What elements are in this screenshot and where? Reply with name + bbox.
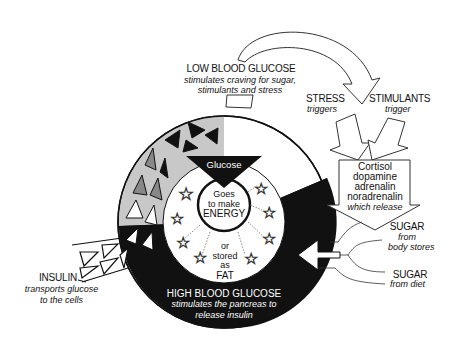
low-glucose-title: LOW BLOOD GLUCOSE bbox=[186, 64, 296, 74]
svg-text:☆: ☆ bbox=[244, 250, 258, 267]
high-glucose-title: HIGH BLOOD GLUCOSE bbox=[159, 289, 289, 299]
svg-text:☆: ☆ bbox=[262, 204, 276, 221]
stress-sub: triggers bbox=[307, 105, 337, 114]
sugar-stores-title: SUGAR bbox=[382, 222, 432, 232]
insulin-line1: transports glucose bbox=[14, 285, 109, 294]
svg-text:☆: ☆ bbox=[170, 210, 184, 227]
insulin-line2: to the cells bbox=[14, 296, 109, 305]
low-glucose-line2: stimulants and stress bbox=[170, 86, 310, 95]
glucose-label: Glucose bbox=[194, 160, 254, 170]
insulin-tube bbox=[72, 238, 128, 282]
stress-title: STRESS bbox=[306, 94, 345, 104]
svg-text:☆: ☆ bbox=[262, 230, 276, 247]
fat-label: or stored as FAT bbox=[204, 242, 246, 280]
stimulants-sub: trigger bbox=[385, 105, 411, 114]
sugar-stores-sub: body stores bbox=[388, 243, 435, 252]
high-glucose-line2: release insulin bbox=[154, 311, 294, 320]
high-glucose-line1: stimulates the pancreas to bbox=[154, 300, 294, 309]
low-glucose-line1: stimulates craving for sugar, bbox=[170, 76, 310, 85]
svg-text:☆: ☆ bbox=[176, 234, 190, 251]
svg-text:☆: ☆ bbox=[178, 184, 194, 204]
energy-label: Goes to make ENERGY bbox=[198, 189, 250, 219]
hormones-list: Cortisol dopamine adrenalin noradrenalin… bbox=[338, 162, 412, 212]
stimulants-title: STIMULANTS bbox=[369, 94, 430, 104]
sugar-diet-sub: from diet bbox=[390, 280, 425, 289]
svg-text:☆: ☆ bbox=[254, 180, 268, 197]
insulin-title: INSULIN bbox=[39, 273, 77, 283]
blood-glucose-cycle-diagram: ☆ ☆ ☆ ☆ ☆ ☆ ☆ ☆ bbox=[0, 0, 453, 351]
